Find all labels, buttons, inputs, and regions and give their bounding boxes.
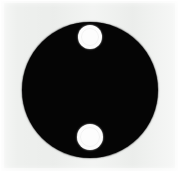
upper-white-hole-shape (78, 25, 102, 49)
figure-canvas (0, 0, 179, 172)
lower-white-hole-shape (77, 124, 103, 150)
black-disc-shape (22, 22, 158, 158)
